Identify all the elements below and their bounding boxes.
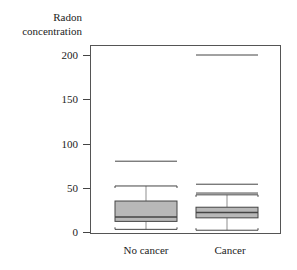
x-label-no-cancer: No cancer [106,244,186,256]
x-label-cancer: Cancer [190,244,270,256]
boxplot-canvas [0,0,297,270]
box-iqr [115,201,177,221]
